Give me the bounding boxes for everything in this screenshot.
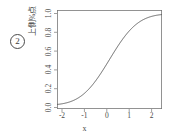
y-tick-label-2: 0.4 — [44, 61, 53, 78]
x-tick-label-2: 0 — [100, 111, 114, 121]
x-axis-label: x — [0, 124, 169, 133]
y-tick-label-5: 1.0 — [44, 5, 53, 22]
x-tick-label-3: 1 — [122, 111, 136, 121]
marker-label: 2 — [15, 37, 20, 46]
y-tick-label-0: 0.0 — [44, 99, 53, 116]
y-tick-label-4: 0.8 — [44, 24, 53, 41]
x-tick-label-1: -1 — [77, 111, 91, 121]
x-tick-label-0: -2 — [55, 111, 69, 121]
x-tick-label-4: 2 — [145, 111, 159, 121]
y-axis-label: 上側%点 — [27, 0, 38, 50]
y-tick-label-3: 0.6 — [44, 43, 53, 60]
y-tick-label-1: 0.2 — [44, 80, 53, 97]
cdf-curve — [57, 15, 162, 105]
circled-number-two-icon: 2 — [10, 34, 25, 49]
chart-figure: 2 上側%点 0.0 0.2 0.4 0.6 0.8 1.0 -2 -1 0 1… — [0, 0, 169, 140]
plot-area — [57, 10, 162, 109]
